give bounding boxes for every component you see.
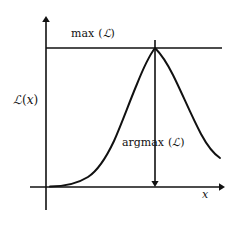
y-axis-arrowhead <box>42 16 50 22</box>
argmax-label-close-paren: ) <box>180 136 184 149</box>
argmax-dropline-group <box>151 40 158 187</box>
x-axis-label: x <box>202 189 208 200</box>
max-label-symbol: ℒ <box>103 27 111 40</box>
argmax-label: argmax (ℒ) <box>122 137 185 148</box>
max-label: max (ℒ) <box>71 28 115 39</box>
max-label-close-paren: ) <box>111 27 115 40</box>
x-axis-arrowhead <box>219 183 225 191</box>
y-axis-label-symbol: ℒ <box>13 93 22 107</box>
likelihood-curve <box>50 48 220 187</box>
likelihood-function-figure: max (ℒ) argmax (ℒ) ℒ(x) x <box>0 0 238 233</box>
argmax-label-prefix: argmax <box>122 136 164 149</box>
max-label-prefix: max <box>71 27 94 40</box>
argmax-arrowhead <box>151 181 158 187</box>
y-axis-label: ℒ(x) <box>13 94 38 106</box>
y-axis-group <box>42 16 50 210</box>
y-axis-label-close-paren: ) <box>33 93 38 107</box>
